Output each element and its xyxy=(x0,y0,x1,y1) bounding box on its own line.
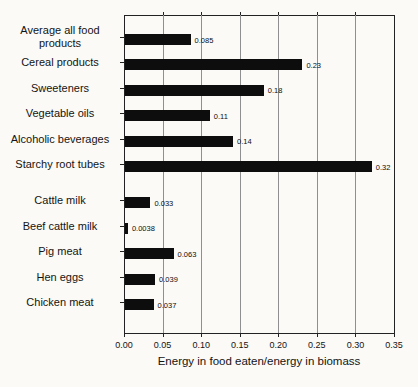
bar xyxy=(125,248,174,259)
bar xyxy=(125,136,233,147)
bottom-axis-tick xyxy=(201,333,202,337)
top-axis-tick xyxy=(240,12,241,15)
top-axis-tick xyxy=(355,12,356,15)
top-axis-tick xyxy=(163,12,164,15)
x-tick-label: 0.10 xyxy=(192,340,210,350)
x-tick-label: 0.35 xyxy=(385,340,403,350)
category-label: Cereal products xyxy=(4,56,116,69)
category-label: Average all food products xyxy=(4,24,116,50)
bar-value-label: 0.037 xyxy=(158,300,177,309)
category-label: Alcoholic beverages xyxy=(4,132,116,145)
category-axis-tick xyxy=(120,113,124,114)
category-label: Cattle milk xyxy=(4,194,116,207)
category-axis-tick xyxy=(120,164,124,165)
category-axis-tick xyxy=(120,62,124,63)
bottom-axis-tick xyxy=(355,333,356,337)
bar-value-label: 0.32 xyxy=(376,162,391,171)
x-axis-title: Energy in food eaten/energy in biomass xyxy=(124,355,394,367)
bar-value-label: 0.085 xyxy=(195,35,214,44)
category-axis-tick xyxy=(120,226,124,227)
bar-value-label: 0.18 xyxy=(268,86,283,95)
x-tick-label: 0.05 xyxy=(154,340,172,350)
x-tick-label: 0.20 xyxy=(270,340,288,350)
category-label: Sweeteners xyxy=(4,81,116,94)
bottom-axis-tick xyxy=(240,333,241,337)
bar xyxy=(125,299,154,310)
bar-value-label: 0.14 xyxy=(237,137,252,146)
bar xyxy=(125,59,302,70)
bar xyxy=(125,223,128,234)
bar xyxy=(125,110,210,121)
bar xyxy=(125,85,264,96)
top-axis-tick xyxy=(278,12,279,15)
category-axis-tick xyxy=(120,37,124,38)
bar xyxy=(125,34,191,45)
x-tick-label: 0.15 xyxy=(231,340,249,350)
category-axis-tick xyxy=(120,277,124,278)
category-label: Chicken meat xyxy=(4,296,116,309)
bar-value-label: 0.23 xyxy=(306,60,321,69)
bar-value-label: 0.11 xyxy=(214,111,228,120)
category-label: Hen eggs xyxy=(4,270,116,283)
gridline xyxy=(355,15,356,333)
bottom-axis-tick xyxy=(317,333,318,337)
x-tick-label: 0.30 xyxy=(347,340,365,350)
category-label: Vegetable oils xyxy=(4,107,116,120)
bottom-axis-tick xyxy=(124,333,125,337)
category-label: Starchy root tubes xyxy=(4,158,116,171)
bar-value-label: 0.0038 xyxy=(132,224,155,233)
category-label: Beef cattle milk xyxy=(4,219,116,232)
bottom-axis-tick xyxy=(394,333,395,337)
top-axis-tick xyxy=(201,12,202,15)
bar xyxy=(125,197,150,208)
bar xyxy=(125,274,155,285)
bottom-axis-tick xyxy=(163,333,164,337)
category-label: Pig meat xyxy=(4,245,116,258)
x-tick-label: 0.25 xyxy=(308,340,326,350)
bar-value-label: 0.039 xyxy=(159,275,178,284)
x-tick-label: 0.00 xyxy=(115,340,133,350)
category-axis-tick xyxy=(120,139,124,140)
category-axis-tick xyxy=(120,251,124,252)
bottom-axis-tick xyxy=(278,333,279,337)
bar xyxy=(125,161,372,172)
bar-value-label: 0.033 xyxy=(154,198,173,207)
bar-chart-figure: Energy in food eaten/energy in biomass 0… xyxy=(0,0,418,387)
category-axis-tick xyxy=(120,302,124,303)
category-axis-tick xyxy=(120,200,124,201)
bar-value-label: 0.063 xyxy=(178,249,197,258)
top-axis-tick xyxy=(317,12,318,15)
category-axis-tick xyxy=(120,88,124,89)
